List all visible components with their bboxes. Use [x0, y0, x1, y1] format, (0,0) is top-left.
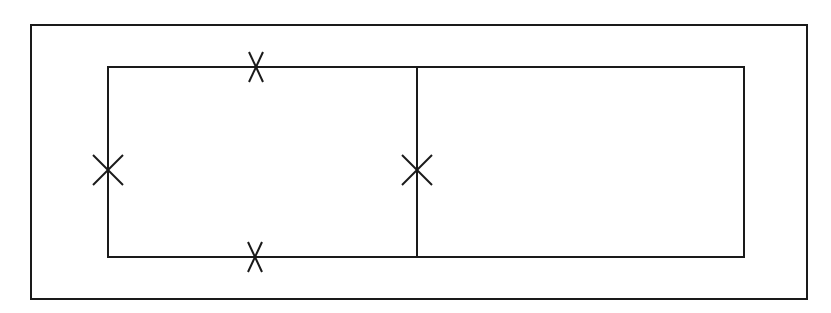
diagram-canvas — [0, 0, 831, 313]
